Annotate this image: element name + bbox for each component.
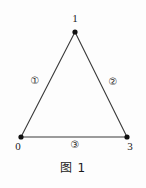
edge-label-1: ① — [28, 76, 42, 86]
vertex-label-0: 0 — [11, 141, 25, 152]
triangle-graph-svg — [0, 0, 146, 188]
vertex-label-3: 3 — [123, 141, 137, 152]
edge-label-2: ② — [106, 77, 120, 87]
figure-caption: 图 1 — [0, 162, 146, 175]
vertex-dot-1 — [72, 29, 77, 34]
vertex-label-1: 1 — [68, 13, 82, 24]
vertex-dot-0 — [18, 134, 23, 139]
edge-label-3: ③ — [68, 140, 82, 150]
vertex-dot-3 — [124, 134, 129, 139]
figure-container: 1 0 3 ① ② ③ 图 1 — [0, 0, 146, 188]
